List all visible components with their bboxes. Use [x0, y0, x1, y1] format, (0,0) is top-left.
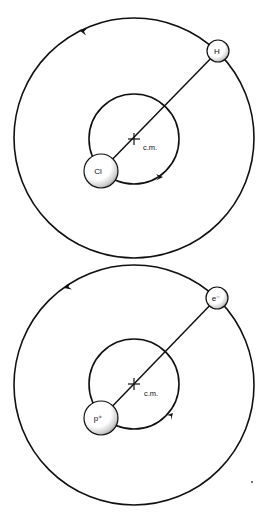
cm-label: c.m.: [144, 389, 158, 398]
svg-text:p⁺: p⁺: [94, 414, 102, 423]
cm-label: c.m.: [143, 143, 157, 152]
svg-text:e⁻: e⁻: [212, 294, 220, 303]
svg-text:H: H: [214, 47, 220, 56]
bond-line: [101, 298, 217, 418]
center-of-mass-cross-icon: [128, 133, 140, 145]
panel-hcl: c.m. H Cl: [14, 18, 254, 258]
bond-line: [101, 51, 218, 171]
arrow-outer-icon: [79, 29, 87, 36]
particle-proton: p⁺: [84, 401, 118, 435]
particle-electron: e⁻: [206, 287, 228, 309]
center-of-mass-diagram: c.m. H Cl c.m. e⁻ p⁺: [0, 0, 268, 519]
speck: [251, 481, 253, 483]
panel-hydrogen: c.m. e⁻ p⁺: [14, 265, 254, 505]
svg-text:Cl: Cl: [94, 167, 102, 176]
atom-h: H: [207, 40, 229, 62]
atom-cl: Cl: [84, 154, 118, 188]
